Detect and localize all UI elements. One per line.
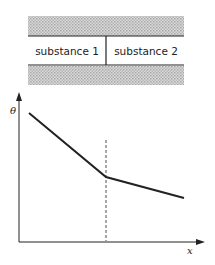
x-axis-label: x xyxy=(187,245,193,256)
composite-bar: substance 1 substance 2 xyxy=(28,16,184,85)
substance-1-label: substance 1 xyxy=(35,45,99,57)
diagram-canvas: substance 1 substance 2 θ x xyxy=(0,0,215,265)
bottom-insulation xyxy=(28,66,184,85)
y-axis-arrow-icon xyxy=(16,92,22,101)
substance-2-label: substance 2 xyxy=(114,45,178,57)
temperature-graph: θ x xyxy=(10,92,205,256)
y-axis-label: θ xyxy=(10,105,16,116)
temperature-profile-line xyxy=(29,113,184,198)
x-axis-arrow-icon xyxy=(196,239,205,245)
top-insulation xyxy=(28,16,184,36)
